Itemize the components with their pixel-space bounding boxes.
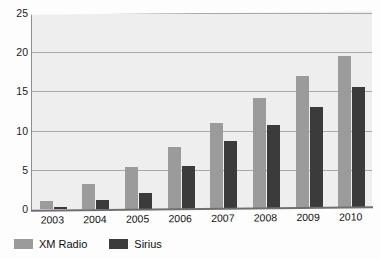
x-axis-tick-label: 2005	[115, 211, 161, 225]
legend-label: Sirius	[134, 239, 162, 250]
x-axis-tick-label: 2007	[200, 211, 246, 225]
y-axis-tick-label: 25	[2, 8, 28, 19]
bar[interactable]	[267, 125, 280, 209]
bar[interactable]	[139, 193, 152, 209]
bar[interactable]	[253, 98, 266, 209]
legend-swatch-icon	[14, 239, 33, 249]
bar-group	[338, 13, 365, 209]
bar[interactable]	[210, 123, 223, 209]
x-axis-tick-label: 2010	[328, 209, 374, 223]
bar-group	[125, 13, 152, 209]
bar-group	[168, 13, 195, 209]
bar-chart: 2520151050 20032004200520062007200820092…	[0, 0, 381, 259]
plot-area	[31, 11, 372, 210]
bar[interactable]	[182, 166, 195, 209]
plot-inner	[32, 13, 372, 209]
x-axis-tick-label: 2003	[29, 212, 75, 226]
legend-label: XM Radio	[39, 239, 87, 250]
y-axis-tick-label: 10	[2, 126, 28, 137]
bar[interactable]	[310, 107, 323, 209]
y-axis-tick-label: 15	[2, 86, 28, 97]
bar-group	[296, 13, 323, 209]
bar[interactable]	[168, 147, 181, 209]
bar[interactable]	[352, 87, 365, 209]
bar[interactable]	[96, 200, 109, 209]
bar-group	[40, 13, 67, 209]
bar-group	[210, 13, 237, 209]
bar[interactable]	[224, 141, 237, 209]
y-axis-tick-label: 20	[2, 47, 28, 58]
bar-group	[82, 13, 109, 209]
y-axis: 2520151050	[0, 0, 28, 259]
bar[interactable]	[125, 167, 138, 209]
x-axis: 20032004200520062007200820092010	[31, 209, 372, 228]
y-axis-tick-label: 5	[2, 165, 28, 176]
bar[interactable]	[296, 76, 309, 209]
chart-legend: XM RadioSirius	[14, 236, 178, 252]
x-axis-tick-label: 2006	[157, 211, 203, 225]
chart-title	[0, 0, 381, 5]
legend-swatch-icon	[109, 239, 128, 249]
legend-item[interactable]: Sirius	[109, 239, 162, 250]
y-axis-tick-label: 0	[2, 204, 28, 215]
bar-group	[253, 13, 280, 209]
bar[interactable]	[338, 56, 351, 209]
x-axis-tick-label: 2009	[285, 210, 331, 224]
legend-item[interactable]: XM Radio	[14, 239, 87, 250]
bar[interactable]	[40, 201, 53, 209]
x-axis-tick-label: 2008	[242, 210, 288, 224]
x-axis-tick-label: 2004	[72, 212, 118, 226]
bar[interactable]	[82, 184, 95, 209]
